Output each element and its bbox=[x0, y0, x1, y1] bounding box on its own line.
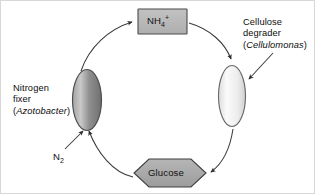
ammonium-box-label: NH4+ NH4+ bbox=[147, 14, 169, 28]
n2-label-subscript: 2 bbox=[60, 157, 64, 164]
arrow-n2-input-to-nitrogen-fixer bbox=[65, 131, 83, 149]
nitrogen-fixer-genus: Azotobacter bbox=[16, 106, 67, 116]
cellulose-degrader-paren-close: ) bbox=[304, 40, 307, 50]
cellulose-degrader-label-line3: (Cellulomonas) bbox=[243, 40, 307, 51]
nitrogen-fixer-label-line3: (Azotobacter) bbox=[13, 106, 70, 117]
nitrogen-fixer-label-line2: fixer bbox=[13, 94, 70, 105]
nitrogen-fixer-label: Nitrogen fixer (Azotobacter) bbox=[13, 83, 70, 117]
cellulose-degrader-genus: Cellulomonas bbox=[246, 40, 304, 50]
nitrogen-fixer-label-line1: Nitrogen bbox=[13, 83, 70, 94]
n2-input-label: N2 bbox=[53, 151, 64, 166]
diagram-canvas: NH4+ NH4+ Glucose Nitrogen fixer (Azotob… bbox=[0, 0, 315, 194]
n2-label-base: N bbox=[53, 151, 60, 162]
arrow-cellulose-degrader-to-glucose bbox=[211, 129, 233, 172]
cellulose-degrader-label-line1: Cellulose bbox=[243, 17, 307, 28]
ammonium-label-rendered: NH4+ bbox=[147, 15, 169, 26]
cellulose-degrader-label: Cellulose degrader (Cellulomonas) bbox=[243, 17, 307, 51]
nitrogen-fixer-paren-close: ) bbox=[67, 106, 70, 116]
node-nitrogen-fixer-cell bbox=[73, 70, 102, 131]
leader-line-cellulose-degrader-label bbox=[249, 53, 273, 79]
glucose-hexagon-label: Glucose bbox=[148, 167, 184, 178]
arrow-glucose-to-nitrogen-fixer bbox=[89, 131, 133, 177]
arrow-ammonium-to-cellulose-degrader bbox=[189, 23, 231, 59]
node-cellulose-degrader-cell bbox=[219, 66, 246, 127]
arrow-nitrogen-fixer-to-ammonium bbox=[81, 22, 132, 71]
cellulose-degrader-label-line2: degrader bbox=[243, 28, 307, 39]
